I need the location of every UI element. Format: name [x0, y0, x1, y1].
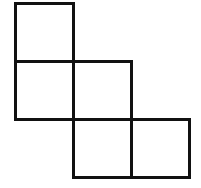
square-4 — [72, 118, 133, 179]
square-3 — [72, 60, 133, 121]
square-5 — [130, 118, 191, 179]
square-net-diagram — [0, 0, 201, 188]
square-1 — [14, 2, 75, 63]
square-2 — [14, 60, 75, 121]
